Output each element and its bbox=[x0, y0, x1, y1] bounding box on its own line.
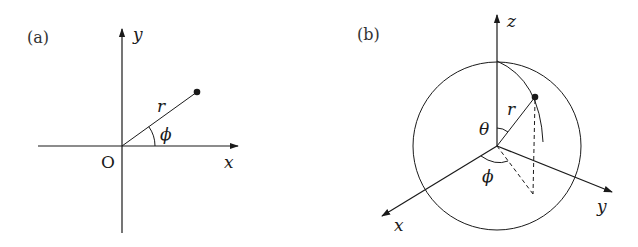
x-axis-3d bbox=[382, 146, 497, 216]
x-axis-label: x bbox=[224, 152, 234, 172]
y-axis-label: y bbox=[132, 24, 143, 44]
radius-label-3d: r bbox=[507, 99, 516, 119]
radius-line-3d bbox=[497, 97, 535, 146]
panel-b-label: (b) bbox=[357, 25, 380, 44]
panel-b-spherical: (b) z x y r θ ϕ bbox=[357, 11, 612, 235]
origin-label: O bbox=[101, 152, 115, 172]
phi-label-3d: ϕ bbox=[482, 166, 494, 186]
point-marker-3d bbox=[532, 94, 539, 101]
y-axis-label-3d: y bbox=[596, 196, 607, 216]
theta-angle-arc bbox=[497, 128, 508, 132]
coordinate-systems-figure: (a) y x O r ϕ (b) z x y r θ ϕ bbox=[0, 0, 638, 247]
theta-label: θ bbox=[479, 119, 489, 139]
projection-vertical-dashed bbox=[533, 100, 535, 194]
point-marker bbox=[194, 89, 201, 96]
panel-a-polar: (a) y x O r ϕ bbox=[27, 24, 238, 233]
x-axis-label-3d: x bbox=[394, 215, 404, 235]
phi-angle-arc-3d bbox=[481, 156, 508, 163]
phi-label: ϕ bbox=[160, 124, 172, 144]
z-axis-label: z bbox=[506, 11, 517, 31]
radius-label: r bbox=[157, 96, 166, 116]
panel-a-label: (a) bbox=[27, 28, 49, 47]
phi-angle-arc bbox=[149, 127, 155, 146]
